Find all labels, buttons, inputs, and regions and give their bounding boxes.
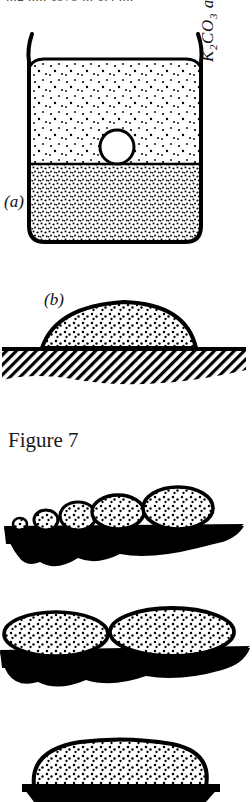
- figure-7-group: (a) K2CO3 alcohol (b) Figure 7: [0, 14, 252, 434]
- side-label-sub-3: 3: [207, 13, 219, 19]
- figure-page: ...2 ..... 1979 ... 1.4 ....: [0, 0, 252, 802]
- drop-dome: [34, 739, 207, 786]
- side-label-k: K: [198, 50, 217, 62]
- side-label-alcohol: alcohol: [198, 0, 217, 13]
- panel-b-label: (b): [44, 290, 64, 310]
- drop-1: [13, 518, 27, 530]
- micrograph-row-2: [0, 586, 252, 704]
- hatched-substrate: [2, 351, 246, 384]
- drop-2: [34, 510, 58, 530]
- drop-5: [143, 487, 213, 529]
- lower-liquid-layer: [28, 164, 202, 244]
- side-label-co: CO: [198, 19, 217, 44]
- side-label-sub-2: 2: [207, 44, 219, 50]
- substrate-lip-3: [22, 784, 220, 792]
- micrograph-row-3: [0, 700, 252, 802]
- drop-right: [110, 608, 234, 656]
- drop-4: [92, 495, 144, 529]
- figure-caption: Figure 7: [8, 428, 79, 453]
- sessile-drop-shape: [42, 302, 196, 348]
- panel-b-sessile-drop: [0, 276, 252, 406]
- panel-a-label: (a): [4, 192, 24, 212]
- clipped-header-text: ...2 ..... 1979 ... 1.4 ....: [6, 0, 134, 5]
- droplet-at-interface-icon: [100, 130, 134, 164]
- drop-left: [4, 612, 108, 656]
- drop-3: [60, 502, 96, 530]
- panel-a-side-label: K2CO3 alcohol: [198, 0, 228, 62]
- micrograph-row-1: [0, 468, 252, 588]
